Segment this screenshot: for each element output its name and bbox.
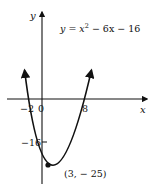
vertex-label: (3, − 25) (64, 168, 107, 179)
x-tick-label-minus2: −2 (20, 103, 34, 114)
x-axis-label: x (140, 104, 146, 115)
x-tick-label-0: 0 (38, 103, 44, 114)
parabola-chart: y x y = x2 − 6x − 16 −2 0 8 −16 (3, − 25… (0, 0, 157, 191)
vertex-dot (45, 162, 50, 167)
y-tick-label-minus16: −16 (21, 137, 41, 148)
equation-label: y = x2 − 6x − 16 (59, 22, 140, 34)
y-axis-label: y (29, 10, 36, 21)
parabola-curve (25, 70, 92, 165)
x-tick-label-8: 8 (82, 103, 88, 114)
